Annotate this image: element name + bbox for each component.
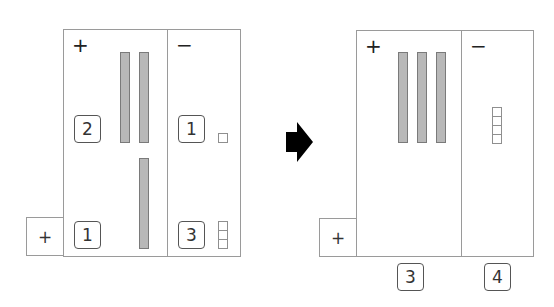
unit-cube (218, 239, 228, 249)
after-minus-label: − (470, 36, 487, 56)
unit-cube (218, 133, 228, 143)
ten-rod (120, 52, 130, 143)
after-plus-result-box: 3 (397, 263, 424, 291)
before-plus-count-box-1: 2 (74, 115, 101, 143)
unit-cube (492, 134, 502, 144)
count-label: 2 (82, 121, 93, 138)
before-panel-divider (167, 29, 168, 257)
ten-rod (139, 52, 149, 143)
right-arrow-icon (286, 122, 314, 162)
before-side-plus-box: + (26, 217, 64, 256)
before-plus-label: + (72, 35, 89, 55)
before-minus-count-box-2: 3 (178, 221, 205, 249)
after-panel-divider (461, 30, 462, 257)
after-minus-result-box: 4 (484, 263, 511, 291)
ten-rod (417, 52, 427, 143)
after-side-plus-box: + (319, 218, 357, 257)
plus-sign: + (331, 228, 345, 248)
count-label: 1 (186, 121, 197, 138)
ten-rod (436, 52, 446, 143)
ten-rod (139, 158, 149, 249)
result-label: 4 (492, 269, 503, 286)
result-label: 3 (405, 269, 416, 286)
before-minus-count-box-1: 1 (178, 115, 205, 143)
count-label: 1 (82, 227, 93, 244)
after-plus-label: + (365, 36, 382, 56)
plus-sign: + (38, 227, 52, 247)
ten-rod (398, 52, 408, 143)
count-label: 3 (186, 227, 197, 244)
before-plus-count-box-2: 1 (74, 221, 101, 249)
before-minus-label: − (176, 35, 193, 55)
